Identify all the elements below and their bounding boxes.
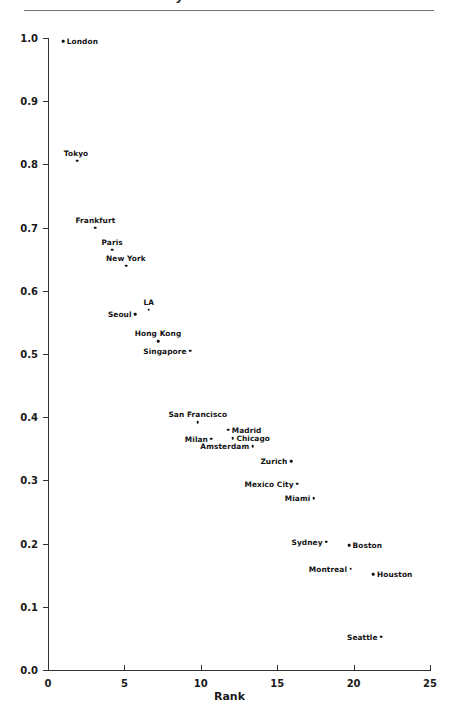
- data-point-label: London: [67, 37, 98, 46]
- y-axis-tick-label: 0.0: [0, 665, 38, 676]
- data-point-label: Boston: [353, 541, 383, 550]
- y-axis-tick-label: 0.7: [0, 222, 38, 233]
- data-point-label: Montreal: [309, 564, 347, 573]
- data-point[interactable]: [313, 497, 316, 500]
- data-point-label: Tokyo: [64, 149, 88, 158]
- data-point[interactable]: [196, 421, 199, 424]
- x-axis-tick: [354, 665, 355, 671]
- y-axis-tick: [43, 164, 49, 165]
- y-axis-tick: [43, 417, 49, 418]
- data-point-label: Frankfurt: [75, 216, 115, 225]
- data-point[interactable]: [157, 340, 160, 343]
- data-point-label: Hong Kong: [135, 329, 182, 338]
- data-point[interactable]: [232, 437, 235, 440]
- data-point[interactable]: [227, 429, 230, 432]
- data-point[interactable]: [134, 313, 137, 316]
- x-axis-tick: [430, 665, 431, 671]
- x-axis-tick-label: 0: [45, 678, 52, 689]
- data-point-label: Sydney: [291, 537, 322, 546]
- data-point[interactable]: [349, 568, 352, 571]
- x-axis-tick-label: 25: [423, 678, 437, 689]
- data-point-label: Houston: [377, 569, 413, 578]
- y-axis-tick: [43, 291, 49, 292]
- data-point-label: Seoul: [108, 310, 132, 319]
- y-axis-tick: [43, 228, 49, 229]
- x-axis-tick-label: 15: [270, 678, 284, 689]
- y-axis-tick-label: 0.6: [0, 285, 38, 296]
- data-point[interactable]: [94, 226, 97, 229]
- x-axis-line: [48, 670, 430, 671]
- y-axis-tick-label: 0.1: [0, 601, 38, 612]
- y-axis-tick-label: 0.3: [0, 475, 38, 486]
- x-axis-tick-label: 10: [194, 678, 208, 689]
- x-axis-tick: [201, 665, 202, 671]
- data-point[interactable]: [380, 635, 383, 638]
- data-point-label: Paris: [102, 238, 123, 247]
- y-axis-tick-label: 1.0: [0, 33, 38, 44]
- y-axis-tick: [43, 480, 49, 481]
- y-axis-tick: [43, 354, 49, 355]
- data-point[interactable]: [290, 460, 293, 463]
- data-point-label: New York: [106, 254, 146, 263]
- x-axis-tick: [124, 665, 125, 671]
- x-axis-tick-label: 20: [347, 678, 361, 689]
- data-point[interactable]: [372, 573, 375, 576]
- data-point[interactable]: [76, 159, 79, 162]
- data-point[interactable]: [210, 437, 213, 440]
- data-point[interactable]: [348, 544, 351, 547]
- data-point-label: Singapore: [143, 346, 186, 355]
- data-point-label: Amsterdam: [200, 442, 249, 451]
- data-point[interactable]: [189, 350, 192, 353]
- data-point[interactable]: [251, 445, 254, 448]
- data-point[interactable]: [125, 264, 128, 267]
- y-axis-tick-label: 0.5: [0, 349, 38, 360]
- data-point-label: Zurich: [260, 457, 287, 466]
- data-point-label: Miami: [285, 494, 311, 503]
- y-axis-tick-label: 0.2: [0, 538, 38, 549]
- x-axis-title: Rank: [0, 690, 459, 703]
- data-point[interactable]: [325, 540, 328, 543]
- scatter-plot: Rank 0.00.10.20.30.40.50.60.70.80.91.005…: [0, 0, 459, 722]
- x-axis-tick: [277, 665, 278, 671]
- chart-page: Market Share by Rank Rank 0.00.10.20.30.…: [0, 0, 459, 722]
- data-point[interactable]: [111, 248, 114, 251]
- x-axis-tick: [48, 665, 49, 671]
- y-axis-tick: [43, 544, 49, 545]
- x-axis-tick-label: 5: [121, 678, 128, 689]
- data-point[interactable]: [148, 308, 151, 311]
- y-axis-tick-label: 0.4: [0, 412, 38, 423]
- y-axis-tick: [43, 607, 49, 608]
- y-axis-tick: [43, 38, 49, 39]
- data-point-label: LA: [144, 298, 155, 307]
- y-axis-tick-label: 0.8: [0, 159, 38, 170]
- data-point-label: Seattle: [347, 632, 378, 641]
- data-point-label: San Francisco: [168, 410, 227, 419]
- data-point[interactable]: [62, 40, 65, 43]
- data-point-label: Mexico City: [244, 479, 293, 488]
- y-axis-tick: [43, 101, 49, 102]
- y-axis-tick-label: 0.9: [0, 96, 38, 107]
- data-point[interactable]: [296, 482, 299, 485]
